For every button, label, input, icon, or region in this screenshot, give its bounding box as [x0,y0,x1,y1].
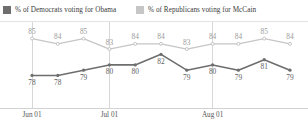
legend-item-democrats[interactable]: % of Democrats voting for Obama [3,3,116,16]
data-label-dem-3: 80 [106,67,114,76]
data-label-rep-8: 84 [235,32,243,41]
chart-svg: 8584858384848384848584787879808082798079… [0,22,308,108]
data-label-dem-10: 79 [286,73,294,82]
data-label-rep-4: 84 [132,32,140,41]
data-label-rep-2: 85 [80,27,88,36]
data-point-rep-4[interactable] [134,42,137,45]
legend-item-republicans[interactable]: % of Republicans voting for McCain [136,3,256,16]
data-label-dem-1: 78 [54,78,62,87]
data-point-rep-6[interactable] [185,48,188,51]
data-label-rep-5: 84 [157,32,165,41]
data-point-dem-10[interactable] [288,69,291,72]
data-point-dem-2[interactable] [82,69,85,72]
data-point-dem-4[interactable] [134,63,137,66]
data-label-dem-2: 79 [80,73,88,82]
data-label-rep-10: 84 [286,32,294,41]
legend-label-democrats: % of Democrats voting for Obama [15,5,116,15]
data-point-rep-7[interactable] [211,42,214,45]
data-label-dem-7: 80 [209,67,217,76]
x-tick-aug-01: Aug 01 [202,111,223,119]
data-label-dem-8: 79 [235,73,243,82]
data-label-rep-0: 85 [28,27,36,36]
data-point-rep-9[interactable] [263,37,266,40]
data-point-dem-1[interactable] [56,74,59,77]
data-point-dem-0[interactable] [30,74,33,77]
data-point-dem-5[interactable] [159,53,162,56]
data-point-rep-3[interactable] [108,48,111,51]
data-point-dem-7[interactable] [211,63,214,66]
data-point-dem-6[interactable] [185,69,188,72]
data-label-rep-3: 83 [106,38,114,47]
x-tick-jul-01: Jul 01 [101,111,118,119]
data-label-dem-6: 79 [183,73,191,82]
data-point-rep-0[interactable] [31,37,34,40]
data-point-rep-5[interactable] [160,42,163,45]
data-point-rep-1[interactable] [56,42,59,45]
data-label-rep-9: 85 [261,27,269,36]
data-label-dem-5: 82 [157,57,165,66]
chart-legend: % of Democrats voting for Obama % of Rep… [0,0,308,20]
x-axis-tick-labels: Jun 01Jul 01Aug 01 [0,109,308,125]
legend-swatch-democrats [3,6,11,14]
legend-label-republicans: % of Republicans voting for McCain [148,5,256,15]
data-point-dem-3[interactable] [108,63,111,66]
data-point-rep-8[interactable] [237,42,240,45]
chart-plot-area: 8584858384848384848584787879808082798079… [0,22,308,108]
data-label-rep-6: 83 [183,38,191,47]
data-label-dem-9: 81 [261,62,269,71]
data-label-dem-4: 80 [132,67,140,76]
x-tick-jun-01: Jun 01 [23,111,42,119]
chart-widget: % of Democrats voting for Obama % of Rep… [0,0,308,125]
data-point-rep-10[interactable] [289,42,292,45]
legend-swatch-republicans [136,6,144,14]
data-point-dem-8[interactable] [237,69,240,72]
data-label-rep-1: 84 [54,32,62,41]
data-point-rep-2[interactable] [82,37,85,40]
data-label-rep-7: 84 [209,32,217,41]
data-point-dem-9[interactable] [263,58,266,61]
data-label-dem-0: 78 [28,78,36,87]
